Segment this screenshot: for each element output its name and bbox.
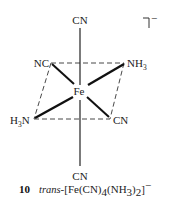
bond-eq-front-right xyxy=(87,97,109,117)
ligand-top-label: CN xyxy=(72,14,87,26)
metal-label: Fe xyxy=(74,85,85,97)
bond-eq-back-left xyxy=(52,64,74,84)
compound-formula: trans-[Fe(CN)4(NH3)2]− xyxy=(39,179,151,198)
bond-eq-back-right xyxy=(88,64,124,85)
ligand-back-right-label: NH3 xyxy=(127,57,147,72)
compound-number: 10 xyxy=(19,183,31,195)
ligand-front-right-label: CN xyxy=(113,114,128,126)
ligand-front-left-label: H3N xyxy=(10,114,30,129)
bond-eq-front-left xyxy=(35,97,73,118)
complex-structure-diagram: CN CN Fe NC NH3 H3N CN − 10 trans-[Fe(CN… xyxy=(0,0,170,199)
ligand-back-left-label: NC xyxy=(34,57,49,69)
ligand-bottom-label: CN xyxy=(72,170,87,182)
charge-sign: − xyxy=(151,12,157,24)
charge-bracket: − xyxy=(143,12,157,28)
